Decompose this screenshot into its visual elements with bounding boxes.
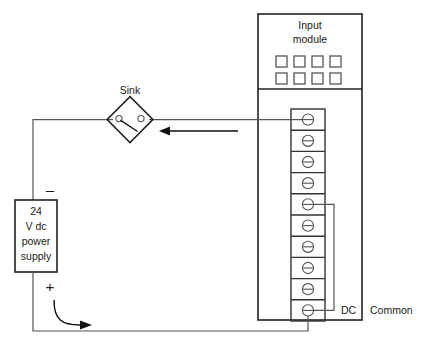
led-indicator [294,73,305,84]
return-path-arrow [159,127,238,136]
plc-input-wiring-diagram: Input module [0,0,422,350]
terminal-screw-2 [302,135,313,146]
power-supply-line4: supply [21,250,52,262]
terminal-screw-7 [302,241,313,252]
terminal-screw-3 [302,156,313,167]
wire-supply-positive-to-terminal10 [33,272,308,331]
led-indicator [276,73,287,84]
led-indicator [312,56,323,67]
power-supply-line3: power [22,235,51,247]
led-indicator [276,56,287,67]
common-label: Common [370,304,413,316]
terminal-screw-5 [302,199,313,210]
terminal-strip [291,109,325,321]
switch-contact-arm [120,120,137,131]
wiring-schematic-canvas: Input module [0,0,422,350]
terminal-screw-1 [302,114,313,125]
led-indicator [330,73,341,84]
led-indicator [330,56,341,67]
sink-sensor-symbol [107,97,153,143]
led-indicator [294,56,305,67]
positive-terminal-sign: + [46,278,55,295]
supply-path-arrow [54,300,92,330]
terminal-screw-6 [302,220,313,231]
negative-terminal-sign: – [46,181,55,198]
switch-contact-right [138,116,144,122]
sensor-diamond-outline [107,97,153,143]
module-title-line1: Input [298,19,321,31]
led-indicator [312,73,323,84]
terminal-screw-9 [302,284,313,295]
power-supply-line2: V dc [25,220,46,232]
module-title-line2: module [293,33,328,45]
terminal-screw-10 [302,305,313,316]
dc-label: DC [341,304,357,316]
sink-sensor-label: Sink [120,84,141,96]
power-supply-line1: 24 [30,205,42,217]
terminal-screw-4 [302,178,313,189]
led-indicator-group [276,56,341,84]
terminal-screw-8 [302,262,313,273]
